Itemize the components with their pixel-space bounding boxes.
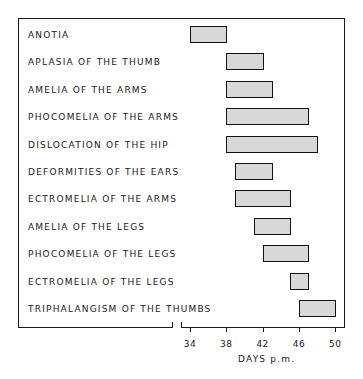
x-axis-tick [190,327,191,332]
x-tick-label: 34 [180,339,200,349]
x-tick-label: 38 [216,339,236,349]
row-label: PHOCOMELIA OF THE LEGS [28,249,177,259]
range-bar [226,108,309,125]
row-label: ANOTIA [28,30,69,40]
row-label: PHOCOMELIA OF THE ARMS [28,112,179,122]
range-bar [190,26,227,43]
range-bar [226,81,272,98]
range-bar [299,300,336,317]
x-tick-label: 42 [253,339,273,349]
axis-break-mark-left [172,322,173,327]
range-bar [290,273,309,290]
range-bar [226,136,318,153]
range-bar [263,245,309,262]
row-label: ECTROMELIA OF THE ARMS [28,194,177,204]
range-bar [254,218,291,235]
range-bar [235,163,272,180]
range-bar [235,190,290,207]
row-label: APLASIA OF THE THUMB [28,57,161,67]
row-label: ECTROMELIA OF THE LEGS [28,277,175,287]
frame-left-border [18,18,19,328]
x-tick-label: 46 [289,339,309,349]
x-axis-tick [263,327,264,332]
row-label: AMELIA OF THE ARMS [28,85,148,95]
x-axis-tick [335,327,336,332]
frame-right-border [344,18,345,328]
x-axis-label: DAYS p.m. [238,354,295,364]
row-label: DEFORMITIES OF THE EARS [28,167,179,177]
x-tick-label: 50 [325,339,345,349]
row-label: AMELIA OF THE LEGS [28,222,145,232]
x-axis-tick [299,327,300,332]
x-axis-tick [226,327,227,332]
row-label: TRIPHALANGISM OF THE THUMBS [28,304,212,314]
row-label: DISLOCATION OF THE HIP [28,140,169,150]
frame-top-border [18,18,345,19]
frame-bottom-left-border [18,327,173,328]
range-bar [226,53,263,70]
